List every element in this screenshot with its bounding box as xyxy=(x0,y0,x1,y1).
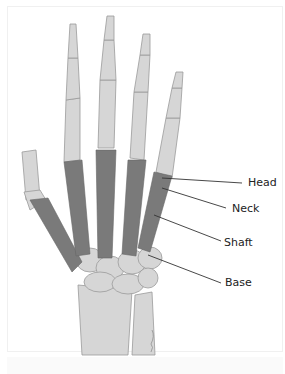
label-shaft: Shaft xyxy=(224,236,253,249)
radius-bone xyxy=(78,285,132,355)
label-base: Base xyxy=(225,276,252,289)
label-head: Head xyxy=(248,176,277,189)
metacarpal-3 xyxy=(96,150,116,258)
label-neck: Neck xyxy=(232,202,259,215)
ulna-bone xyxy=(132,292,155,355)
figure-caption xyxy=(10,365,280,374)
hand-skeleton-illustration xyxy=(0,0,285,374)
